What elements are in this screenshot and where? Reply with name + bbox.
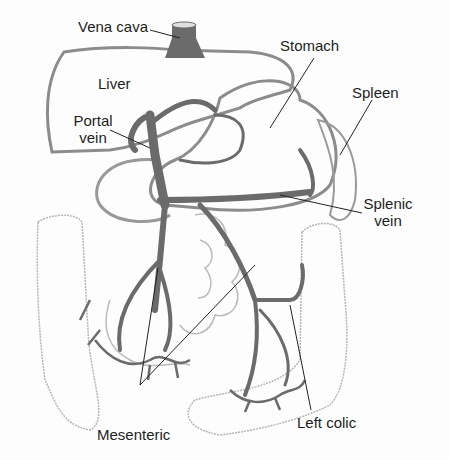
label-spleen: Spleen — [352, 84, 399, 101]
vena-cava — [165, 25, 205, 58]
label-splenic-vein-line2: vein — [360, 212, 416, 229]
ascending-colon — [37, 215, 99, 430]
label-vena-cava: Vena cava — [78, 18, 148, 35]
portal-system-diagram: Vena cava Stomach Liver Spleen Portal ve… — [0, 0, 449, 460]
label-liver: Liver — [98, 75, 131, 92]
label-splenic-vein-line1: Splenic — [360, 195, 416, 212]
label-portal-vein-line2: vein — [68, 129, 118, 146]
portal-vein-network — [119, 101, 313, 395]
label-stomach: Stomach — [280, 37, 339, 54]
anatomy-illustration — [0, 0, 449, 460]
label-left-colic: Left colic — [297, 414, 356, 431]
vein-arcades — [80, 300, 305, 412]
small-intestine — [106, 214, 239, 366]
label-portal-vein-line1: Portal — [68, 112, 118, 129]
label-splenic-vein: Splenic vein — [360, 195, 416, 229]
label-mesenteric: Mesenteric — [97, 426, 170, 443]
label-portal-vein: Portal vein — [68, 112, 118, 146]
